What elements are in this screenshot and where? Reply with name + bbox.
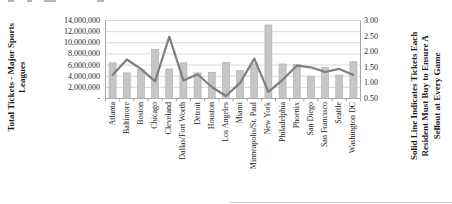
y-axis-right-tick-label: 1.50 <box>364 63 378 72</box>
bar-boston <box>137 70 144 99</box>
x-axis-label-houston: Houston <box>207 102 217 129</box>
chart-screenshot: Total Tickets - Major Sports Leagues Sol… <box>0 0 452 204</box>
x-axis-label-chicago: Chicago <box>150 102 160 129</box>
y-axis-left-tick-label: 6,000,000 <box>38 61 100 70</box>
x-axis-label-phoenix: Phoenix <box>292 102 302 128</box>
y-axis-right-tick-label: 3.00 <box>364 16 378 25</box>
y-axis-right-tick-label: 1.00 <box>364 78 378 87</box>
x-axis-label-los-angeles: Los Angeles <box>221 102 231 142</box>
y-axis-right-tick-label: 2.00 <box>364 47 378 56</box>
bar-cleveland <box>166 69 173 99</box>
y-axis-left-tick-label: 4,000,000 <box>38 72 100 81</box>
x-axis-label-detroit: Detroit <box>193 102 203 125</box>
x-axis-label-minneapolis-st-paul: Minneapolis/St. Paul <box>249 102 259 169</box>
x-axis-label-boston: Boston <box>136 102 146 125</box>
x-axis-label-philadelphia: Philadelphia <box>278 102 288 142</box>
bar-minneapolis-st-paul <box>251 64 258 99</box>
y-axis-right-tick-label: 2.50 <box>364 32 378 41</box>
y-axis-left-tick-label: 2,000,000 <box>38 83 100 92</box>
bar-seattle <box>336 75 343 98</box>
y-axis-right-tick-label: 0.50 <box>364 94 378 103</box>
x-axis-label-washington-dc: Washington DC <box>348 102 358 153</box>
y-axis-left-tick-label: - <box>38 94 100 103</box>
bar-san-diego <box>307 76 314 98</box>
bar-atlanta <box>109 63 116 99</box>
x-axis-label-miami: Miami <box>235 102 245 123</box>
page-rule-artifact <box>230 202 452 203</box>
x-axis-label-san-diego: San Diego <box>306 102 316 136</box>
x-axis-label-seattle: Seattle <box>334 102 344 124</box>
y-axis-left-tick-label: 10,000,000 <box>38 38 100 47</box>
bar-washington-dc <box>350 62 357 99</box>
bar-baltimore <box>123 73 130 99</box>
x-axis-label-san-francisco: San Francisco <box>320 102 330 147</box>
y-axis-left-tick-label: 12,000,000 <box>38 27 100 36</box>
x-axis-label-dallas-fort-worth: Dallas/Fort Worth <box>178 102 188 160</box>
x-axis-label-baltimore: Baltimore <box>122 102 132 134</box>
x-axis-label-new-york: New York <box>263 102 273 134</box>
x-axis-label-atlanta: Atlanta <box>108 102 118 126</box>
y-axis-left-tick-label: 8,000,000 <box>38 49 100 58</box>
y-axis-left-tick-label: 14,000,000 <box>38 16 100 25</box>
x-axis-label-cleveland: Cleveland <box>164 102 174 134</box>
